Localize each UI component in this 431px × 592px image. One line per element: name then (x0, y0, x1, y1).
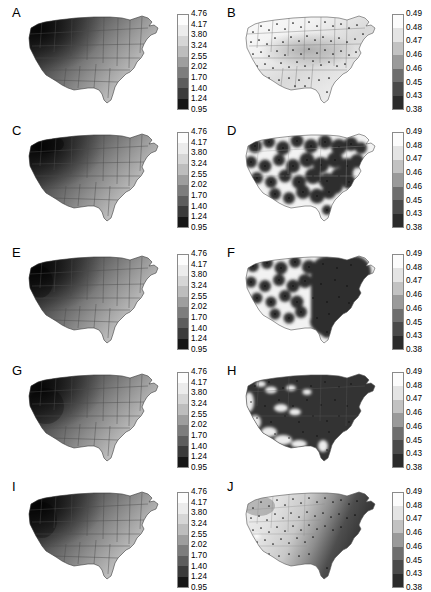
colorbar-c-tick-5: 2.02 (191, 181, 207, 189)
colorbar-i-tick-1: 4.17 (191, 499, 207, 507)
colorbar-f-ticks: 0.49 0.48 0.47 0.46 0.46 0.45 0.43 0.38 (406, 254, 431, 350)
colorbar-c-tick-7: 1.40 (191, 203, 207, 211)
colorbar-f: 0.49 0.48 0.47 0.46 0.46 0.45 0.43 0.38 (392, 254, 404, 350)
us-map-i (18, 484, 170, 590)
colorbar-b-tick-5: 0.45 (406, 79, 422, 87)
map-h (235, 366, 387, 472)
map-b (235, 8, 387, 114)
colorbar-g-tick-2: 3.80 (191, 389, 207, 397)
colorbar-j-tick-6: 0.43 (406, 570, 422, 578)
colorbar-b-strip (392, 14, 404, 110)
colorbar-j-tick-2: 0.47 (406, 515, 422, 523)
colorbar-c: 4.76 4.17 3.80 3.24 2.55 2.02 1.70 1.40 … (177, 132, 189, 228)
map-c (18, 126, 170, 232)
colorbar-i-tick-6: 1.70 (191, 552, 207, 560)
colorbar-g-tick-9: 0.95 (191, 464, 207, 472)
colorbar-b-tick-6: 0.43 (406, 92, 422, 100)
colorbar-j: 0.49 0.48 0.47 0.46 0.46 0.45 0.43 0.38 (392, 492, 404, 588)
us-map-e (18, 248, 170, 354)
us-map-f (235, 248, 387, 354)
panel-g: G (0, 358, 215, 476)
map-f (235, 248, 387, 354)
colorbar-i-tick-8: 1.24 (191, 573, 207, 581)
us-map-d (235, 126, 387, 232)
colorbar-a-tick-3: 3.24 (191, 42, 207, 50)
colorbar-h-tick-7: 0.38 (406, 464, 422, 472)
colorbar-h-tick-3: 0.46 (406, 409, 422, 417)
colorbar-e-tick-5: 2.02 (191, 303, 207, 311)
colorbar-c-tick-1: 4.17 (191, 139, 207, 147)
us-map-b (235, 8, 387, 114)
colorbar-a-tick-4: 2.55 (191, 53, 207, 61)
colorbar-d-strip (392, 132, 404, 228)
map-e (18, 248, 170, 354)
colorbar-f-tick-4: 0.46 (406, 305, 422, 313)
colorbar-g-tick-8: 1.24 (191, 453, 207, 461)
panel-i: I (0, 472, 215, 589)
colorbar-c-tick-3: 3.24 (191, 160, 207, 168)
colorbar-h: 0.49 0.48 0.47 0.46 0.46 0.45 0.43 0.38 (392, 372, 404, 468)
map-d (235, 126, 387, 232)
panel-c: C (0, 118, 215, 236)
colorbar-j-tick-7: 0.38 (406, 584, 422, 592)
colorbar-a-tick-9: 0.95 (191, 106, 207, 114)
colorbar-e-tick-9: 0.95 (191, 346, 207, 354)
panel-b: B (215, 0, 431, 118)
colorbar-e-tick-4: 2.55 (191, 293, 207, 301)
colorbar-e-strip (177, 254, 189, 350)
colorbar-i-strip (177, 492, 189, 588)
colorbar-i-tick-0: 4.76 (191, 488, 207, 496)
colorbar-h-tick-0: 0.49 (406, 368, 422, 376)
colorbar-d-tick-2: 0.47 (406, 155, 422, 163)
colorbar-d-tick-6: 0.43 (406, 210, 422, 218)
us-map-h (235, 366, 387, 472)
colorbar-d: 0.49 0.48 0.47 0.46 0.46 0.45 0.43 0.38 (392, 132, 404, 228)
us-map-g (18, 366, 170, 472)
colorbar-d-tick-0: 0.49 (406, 128, 422, 136)
colorbar-i-tick-4: 2.55 (191, 531, 207, 539)
colorbar-a-tick-6: 1.70 (191, 74, 207, 82)
colorbar-b-tick-7: 0.38 (406, 106, 422, 114)
colorbar-g: 4.76 4.17 3.80 3.24 2.55 2.02 1.70 1.40 … (177, 372, 189, 468)
colorbar-a-tick-1: 4.17 (191, 21, 207, 29)
colorbar-c-tick-6: 1.70 (191, 192, 207, 200)
colorbar-j-strip (392, 492, 404, 588)
colorbar-c-tick-4: 2.55 (191, 171, 207, 179)
colorbar-g-tick-6: 1.70 (191, 432, 207, 440)
colorbar-a-strip (177, 14, 189, 110)
colorbar-d-tick-4: 0.46 (406, 183, 422, 191)
panel-h: H (215, 358, 431, 476)
colorbar-i-tick-3: 3.24 (191, 520, 207, 528)
colorbar-j-tick-0: 0.49 (406, 488, 422, 496)
colorbar-h-tick-6: 0.43 (406, 450, 422, 458)
colorbar-b-tick-2: 0.47 (406, 37, 422, 45)
colorbar-b-ticks: 0.49 0.48 0.47 0.46 0.46 0.45 0.43 0.38 (406, 14, 431, 110)
colorbar-i-tick-7: 1.40 (191, 563, 207, 571)
colorbar-h-tick-1: 0.48 (406, 382, 422, 390)
map-a (18, 8, 170, 114)
colorbar-j-ticks: 0.49 0.48 0.47 0.46 0.46 0.45 0.43 0.38 (406, 492, 431, 588)
panel-letter-f: F (227, 246, 235, 259)
colorbar-d-tick-1: 0.48 (406, 142, 422, 150)
colorbar-f-tick-6: 0.43 (406, 332, 422, 340)
colorbar-h-tick-4: 0.46 (406, 423, 422, 431)
colorbar-j-tick-5: 0.45 (406, 557, 422, 565)
colorbar-a-tick-5: 2.02 (191, 63, 207, 71)
colorbar-c-tick-8: 1.24 (191, 213, 207, 221)
colorbar-h-tick-2: 0.47 (406, 395, 422, 403)
colorbar-e-tick-1: 4.17 (191, 261, 207, 269)
colorbar-g-tick-3: 3.24 (191, 400, 207, 408)
colorbar-f-tick-1: 0.48 (406, 264, 422, 272)
colorbar-g-tick-7: 1.40 (191, 443, 207, 451)
colorbar-a-tick-7: 1.40 (191, 85, 207, 93)
colorbar-e-tick-2: 3.80 (191, 271, 207, 279)
colorbar-b: 0.49 0.48 0.47 0.46 0.46 0.45 0.43 0.38 (392, 14, 404, 110)
map-g (18, 366, 170, 472)
colorbar-f-tick-3: 0.46 (406, 291, 422, 299)
colorbar-a-tick-8: 1.24 (191, 95, 207, 103)
us-map-a (18, 8, 170, 114)
colorbar-e-tick-8: 1.24 (191, 335, 207, 343)
colorbar-e: 4.76 4.17 3.80 3.24 2.55 2.02 1.70 1.40 … (177, 254, 189, 350)
map-j (235, 484, 387, 590)
